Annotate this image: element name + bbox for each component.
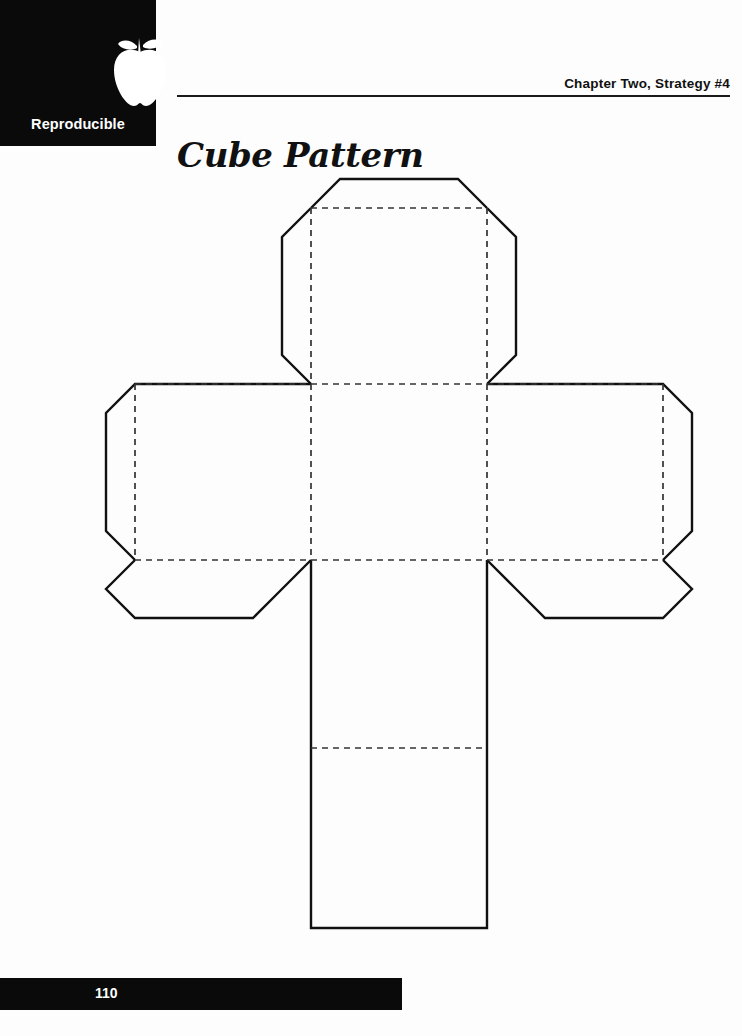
arm-right-outline xyxy=(487,384,692,618)
reproducible-worksheet-page: Reproducible Chapter Two, Strategy #4 Cu… xyxy=(0,0,742,1036)
tab-top xyxy=(311,179,487,208)
footer-bar xyxy=(0,978,402,1010)
trunk-outline xyxy=(311,560,487,928)
tab-top-left-side xyxy=(282,208,311,384)
cube-net-diagram xyxy=(0,0,742,1036)
fold-lines xyxy=(135,208,663,748)
page-number: 110 xyxy=(95,985,118,1001)
arm-left-outline xyxy=(106,384,311,618)
tab-top-right-side xyxy=(487,208,516,384)
